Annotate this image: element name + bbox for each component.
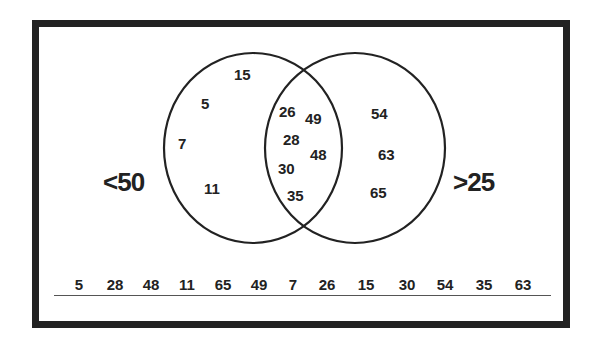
- left-region-number: 15: [234, 67, 251, 82]
- number-list-item: 49: [251, 277, 268, 292]
- right-region-number: 63: [378, 147, 395, 162]
- right-region-number: 65: [370, 185, 387, 200]
- number-list-item: 48: [143, 277, 160, 292]
- left-set-label: <50: [103, 169, 144, 195]
- number-list-item: 15: [358, 277, 375, 292]
- intersection-number: 28: [283, 132, 300, 147]
- intersection-number: 35: [287, 188, 304, 203]
- number-list-item: 26: [319, 277, 336, 292]
- number-list-item: 5: [75, 277, 83, 292]
- number-list-item: 54: [437, 277, 454, 292]
- number-list-item: 65: [215, 277, 232, 292]
- intersection-number: 30: [278, 161, 295, 176]
- number-list-item: 28: [107, 277, 124, 292]
- number-list-item: 35: [476, 277, 493, 292]
- number-list-line: 5 28 48 11 65 49 7 26 15 30 54 35 63: [54, 275, 551, 296]
- right-region-number: 54: [371, 106, 388, 121]
- left-region-number: 7: [178, 136, 186, 151]
- number-list-item: 11: [179, 277, 195, 292]
- right-circle-greater-than-25: [265, 53, 445, 243]
- number-list-item: 7: [289, 277, 297, 292]
- intersection-number: 48: [310, 147, 327, 162]
- intersection-number: 26: [279, 104, 296, 119]
- intersection-number: 49: [305, 111, 322, 126]
- right-set-label: >25: [453, 169, 494, 195]
- number-list-item: 63: [515, 277, 532, 292]
- left-region-number: 5: [201, 96, 209, 111]
- number-list-item: 30: [399, 277, 416, 292]
- left-region-number: 11: [204, 181, 220, 196]
